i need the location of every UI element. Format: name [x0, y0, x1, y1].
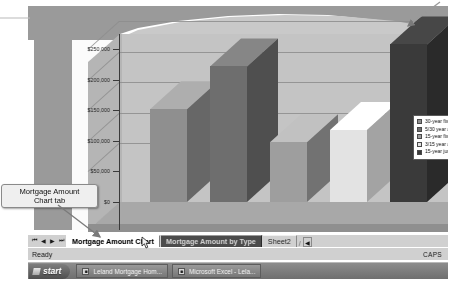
callout-line-2: Chart tab [5, 196, 94, 205]
screenshot-root: $250,000$200,000$150,000$100,000$50,000$… [0, 0, 472, 288]
taskbar-items[interactable]: ■Leland Mortgage Hom...■Microsoft Excel … [76, 264, 265, 278]
axis-tick: $200,000 [113, 80, 119, 81]
axis-tick-label: $50,000 [91, 168, 110, 174]
legend-item-label: 15-year jumbo [425, 148, 448, 156]
bar-front-face [150, 109, 187, 202]
value-axis: $250,000$200,000$150,000$100,000$50,000$… [119, 34, 120, 230]
taskbar-item[interactable]: ■Leland Mortgage Hom... [76, 264, 168, 278]
axis-tick-label: $250,000 [88, 46, 110, 52]
axis-tick: $0 [113, 202, 119, 203]
caps-lock-indicator: CAPS [423, 251, 442, 258]
axis-tick-label: $0 [104, 199, 110, 205]
legend-item[interactable]: 15-year jumbo [417, 148, 448, 156]
status-message: Ready [32, 251, 52, 258]
status-bar: Ready CAPS [28, 247, 448, 260]
taskbar-item[interactable]: ■Microsoft Excel - Lela... [172, 264, 261, 278]
legend-key-swatch [417, 127, 422, 132]
chart-bar[interactable] [330, 102, 398, 202]
axis-tick-label: $200,000 [88, 77, 110, 83]
legend-item[interactable]: 3/15 year adjustab [417, 141, 448, 149]
axis-tick-label: $150,000 [88, 107, 110, 113]
axis-tick: $50,000 [113, 171, 119, 172]
tab-scroll-left-button[interactable]: ◀ [303, 237, 312, 247]
excel-sheet-icon: ■ [178, 268, 185, 275]
legend-item[interactable]: 15-year fixed [417, 133, 448, 141]
first-sheet-button[interactable]: ⏮ [30, 236, 39, 246]
bar-side-face [427, 16, 448, 202]
legend-item[interactable]: 30-year fixed [417, 118, 448, 126]
chart-bar[interactable] [390, 16, 448, 202]
annotation-callout-tab: Mortgage Amount Chart tab [1, 184, 98, 208]
sheet-tab[interactable]: Mortgage Amount by Type [161, 235, 262, 247]
bar-front-face [210, 66, 247, 202]
axis-tick: $100,000 [113, 141, 119, 142]
prev-sheet-button[interactable]: ◀ [39, 236, 48, 246]
bar-front-face [270, 142, 307, 202]
chart-bar[interactable] [270, 114, 338, 202]
legend-key-swatch [417, 142, 422, 147]
bar-front-face [330, 130, 367, 202]
chart-bar[interactable] [210, 38, 278, 202]
chart-bar[interactable] [150, 81, 218, 202]
sheet-tab-bar[interactable]: ⏮ ◀ ▶ ⏭ Mortgage Amount ChartMortgage Am… [28, 234, 448, 247]
windows-flag-icon [32, 268, 40, 275]
legend-item-label: 15-year fixed [425, 133, 448, 141]
tab-separator: / [298, 240, 302, 247]
start-button-label: start [43, 266, 61, 276]
legend-key-swatch [417, 119, 422, 124]
taskbar-item-label: Microsoft Excel - Lela... [189, 268, 255, 275]
axis-tick: $250,000 [113, 49, 119, 50]
legend-key-swatch [417, 134, 422, 139]
sheet-tab[interactable]: Sheet2 [263, 235, 297, 247]
axis-tick: $150,000 [113, 110, 119, 111]
chart-legend[interactable]: 30-year fixed5/30 year adjustab15-year f… [413, 115, 448, 160]
next-sheet-button[interactable]: ▶ [48, 236, 57, 246]
windows-taskbar[interactable]: start ■Leland Mortgage Hom...■Microsoft … [28, 262, 448, 279]
legend-item-label: 5/30 year adjustab [425, 126, 448, 134]
legend-item[interactable]: 5/30 year adjustab [417, 126, 448, 134]
sheet-nav-buttons[interactable]: ⏮ ◀ ▶ ⏭ [28, 234, 66, 247]
sheet-tabs[interactable]: Mortgage Amount ChartMortgage Amount by … [66, 234, 302, 247]
legend-item-label: 3/15 year adjustab [425, 141, 448, 149]
taskbar-item-label: Leland Mortgage Hom... [93, 268, 162, 275]
word-document-icon: ■ [82, 268, 89, 275]
legend-key-swatch [417, 150, 422, 155]
sheet-tab[interactable]: Mortgage Amount Chart [66, 235, 160, 247]
callout-line-1: Mortgage Amount [5, 187, 94, 196]
axis-tick-label: $100,000 [88, 138, 110, 144]
start-button[interactable]: start [29, 264, 70, 279]
last-sheet-button[interactable]: ⏭ [57, 236, 66, 246]
plot-floor-front [88, 224, 448, 232]
legend-item-label: 30-year fixed [425, 118, 448, 126]
